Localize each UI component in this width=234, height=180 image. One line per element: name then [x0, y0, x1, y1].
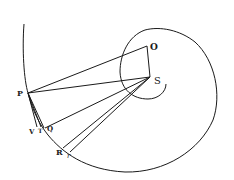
- label-r: r: [67, 152, 71, 160]
- label-P: P: [17, 88, 23, 98]
- label-S: S: [154, 75, 161, 86]
- segment-P-S: [28, 77, 150, 93]
- segment-S-r: [70, 77, 150, 152]
- label-R: R: [56, 147, 63, 157]
- spiral-curve: [23, 24, 217, 172]
- label-T: T: [38, 127, 43, 134]
- label-O: O: [150, 42, 158, 52]
- label-Q: Q: [47, 124, 53, 133]
- diagram-canvas: P O S V T Q R r: [0, 0, 234, 180]
- segment-P-O: [28, 46, 147, 93]
- label-V: V: [28, 127, 35, 136]
